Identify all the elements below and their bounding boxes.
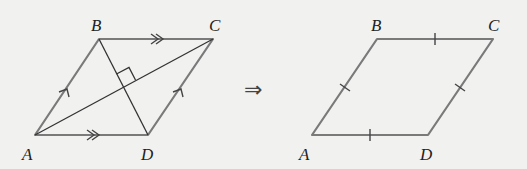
label-b: B — [371, 16, 382, 35]
diagonal-bd — [99, 39, 148, 135]
left-parallelogram: B C A D — [21, 16, 221, 164]
label-d: D — [419, 145, 433, 164]
implies-arrow-icon: ⇒ — [244, 77, 262, 102]
label-d: D — [140, 145, 154, 164]
right-rhombus: B C A D — [298, 16, 500, 164]
label-a: A — [298, 145, 310, 164]
rhombus-abcd-sides — [312, 39, 493, 135]
rhombus-proof-diagram: B C A D ⇒ B C A D — [0, 0, 527, 169]
label-c: C — [209, 16, 221, 35]
label-c: C — [488, 16, 500, 35]
label-a: A — [21, 145, 33, 164]
equal-tick-dc-icon — [455, 84, 465, 91]
label-b: B — [91, 16, 102, 35]
